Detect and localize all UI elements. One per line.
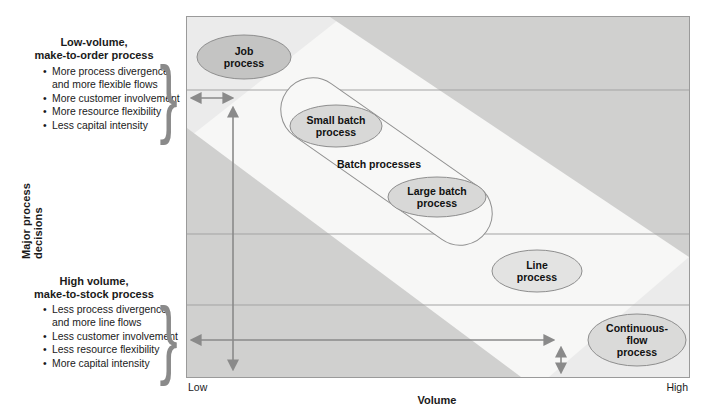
small-batch-process-label: Small batch process — [307, 114, 366, 138]
product-process-matrix-figure: Low-volume, make-to-order process More p… — [0, 0, 713, 419]
bottom-brace: } — [156, 306, 182, 370]
line-process-label: Line process — [517, 259, 557, 283]
x-axis-title: Volume — [186, 394, 688, 406]
x-axis-min-label: Low — [188, 381, 207, 393]
large-batch-process-label: Large batch process — [407, 185, 467, 209]
job-process-label: Job process — [224, 45, 264, 69]
high-volume-title: High volume, make-to-stock process — [10, 275, 178, 300]
plot-area: Job process Small batch process Large ba… — [186, 16, 690, 378]
batch-processes-group-label: Batch processes — [337, 158, 421, 170]
low-volume-title: Low-volume, make-to-order process — [10, 36, 178, 61]
x-axis-max-label: High — [640, 381, 688, 393]
continuous-flow-process-label: Continuous- flow process — [606, 322, 668, 358]
y-axis-label: Major process decisions — [20, 129, 44, 259]
top-brace: } — [156, 64, 182, 130]
